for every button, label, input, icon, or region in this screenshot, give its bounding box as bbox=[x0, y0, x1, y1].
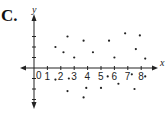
data-point bbox=[54, 78, 56, 80]
data-point bbox=[92, 51, 94, 53]
x-tick-label: 2 bbox=[58, 71, 64, 82]
x-tick-label: 3 bbox=[71, 71, 77, 82]
x-tick-label: 8 bbox=[138, 71, 144, 82]
data-point bbox=[54, 46, 56, 48]
data-point bbox=[100, 87, 102, 89]
data-point bbox=[117, 83, 119, 85]
x-axis-right-arrow-icon bbox=[152, 66, 158, 71]
x-tick-label: 6 bbox=[111, 71, 117, 82]
x-tick-label: 1 bbox=[44, 71, 50, 82]
data-point bbox=[131, 73, 133, 75]
x-axis-left-arrow-icon bbox=[20, 66, 26, 71]
data-point bbox=[135, 48, 137, 50]
data-point bbox=[107, 75, 109, 77]
x-tick-label: 7 bbox=[125, 71, 131, 82]
origin-label: 0 bbox=[36, 70, 42, 81]
y-axis-label: y bbox=[31, 4, 37, 15]
data-point bbox=[85, 87, 87, 89]
y-axis-up-arrow-icon bbox=[32, 14, 37, 21]
data-point bbox=[66, 35, 68, 37]
data-point bbox=[66, 90, 68, 92]
data-point bbox=[133, 88, 135, 90]
data-point bbox=[144, 75, 146, 77]
x-axis-label: x bbox=[159, 57, 165, 68]
scatter-plot: xy012345678 bbox=[0, 0, 166, 115]
data-point bbox=[144, 57, 146, 59]
x-tick-label: 5 bbox=[98, 71, 104, 82]
data-point bbox=[68, 77, 70, 79]
data-point bbox=[73, 56, 75, 58]
data-point bbox=[113, 56, 115, 58]
data-point bbox=[139, 34, 141, 36]
data-point bbox=[82, 96, 84, 98]
data-point bbox=[108, 40, 110, 42]
data-point bbox=[82, 40, 84, 42]
data-point bbox=[62, 51, 64, 53]
x-tick-label: 4 bbox=[85, 71, 91, 82]
y-axis-down-arrow-icon bbox=[32, 102, 37, 109]
data-point bbox=[124, 32, 126, 34]
